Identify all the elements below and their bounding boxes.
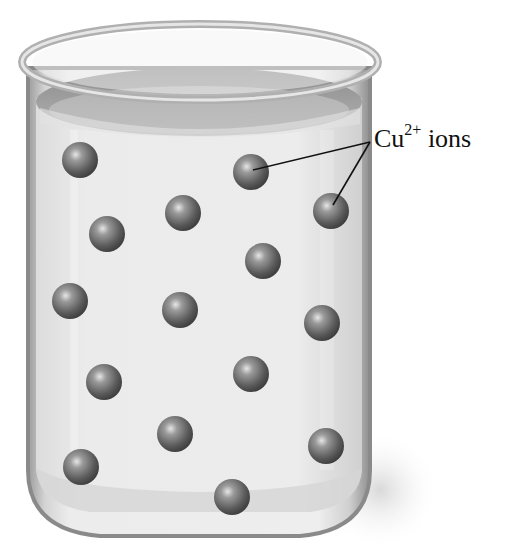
- beaker-diagram: Cu2+ ions: [0, 0, 532, 556]
- cu-ion: [63, 449, 99, 485]
- beaker-illustration: [0, 0, 532, 556]
- cu-ion: [165, 195, 201, 231]
- cu-ion: [52, 283, 88, 319]
- cu-ion: [214, 479, 250, 515]
- cu-ion: [308, 428, 344, 464]
- cu-ion: [304, 305, 340, 341]
- cu-ion: [233, 154, 269, 190]
- ion-label: Cu2+ ions: [374, 124, 471, 152]
- cu-ion: [233, 356, 269, 392]
- cu-ion: [62, 142, 98, 178]
- cu-ion: [86, 364, 122, 400]
- ion-suffix: ions: [421, 124, 471, 153]
- cu-ion: [313, 193, 349, 229]
- cu-ion: [162, 292, 198, 328]
- ion-species: Cu: [374, 124, 404, 153]
- cu-ion: [245, 243, 281, 279]
- cu-ion: [89, 216, 125, 252]
- ion-charge: 2+: [404, 121, 421, 138]
- cu-ion: [157, 416, 193, 452]
